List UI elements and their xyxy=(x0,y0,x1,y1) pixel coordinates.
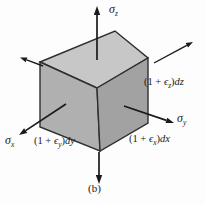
sigma-z-arrowhead-icon xyxy=(94,6,100,15)
dim-dx-open: (1 + xyxy=(129,133,149,144)
sigma-x-subscript: x xyxy=(11,140,14,149)
back-right-arrow-shaft xyxy=(154,45,187,63)
label-dim-dy: (1 + ϵy)dy xyxy=(34,136,75,147)
label-sigma-y: σy xyxy=(177,112,186,124)
back-right-arrow xyxy=(154,42,193,63)
back-right-arrowhead-icon xyxy=(186,42,193,48)
label-sigma-x: σx xyxy=(5,134,14,146)
sigma-z-subscript: z xyxy=(115,9,118,18)
back-left-arrowhead-icon xyxy=(20,58,27,63)
sigma-x-arrowhead-icon xyxy=(19,128,27,135)
figure-caption: (b) xyxy=(88,183,101,194)
cube-figure-svg xyxy=(0,0,205,204)
label-sigma-z: σz xyxy=(109,3,118,15)
label-dim-dz: (1 + ϵz)dz xyxy=(144,77,184,88)
dim-dz-differential: dz xyxy=(175,76,184,87)
figure-strained-cube: σz σy σx (1 + ϵz)dz (1 + ϵx)dx (1 + ϵy)d… xyxy=(0,0,205,204)
sigma-y-subscript: y xyxy=(183,118,186,127)
dim-dz-open: (1 + xyxy=(144,76,164,87)
label-dim-dx: (1 + ϵx)dx xyxy=(129,134,170,145)
dim-dy-differential: dy xyxy=(65,135,75,146)
bottom-arrow xyxy=(96,152,102,184)
sigma-y-arrowhead-icon xyxy=(166,118,175,123)
dim-dx-differential: dx xyxy=(160,133,170,144)
dim-dy-open: (1 + xyxy=(34,135,54,146)
